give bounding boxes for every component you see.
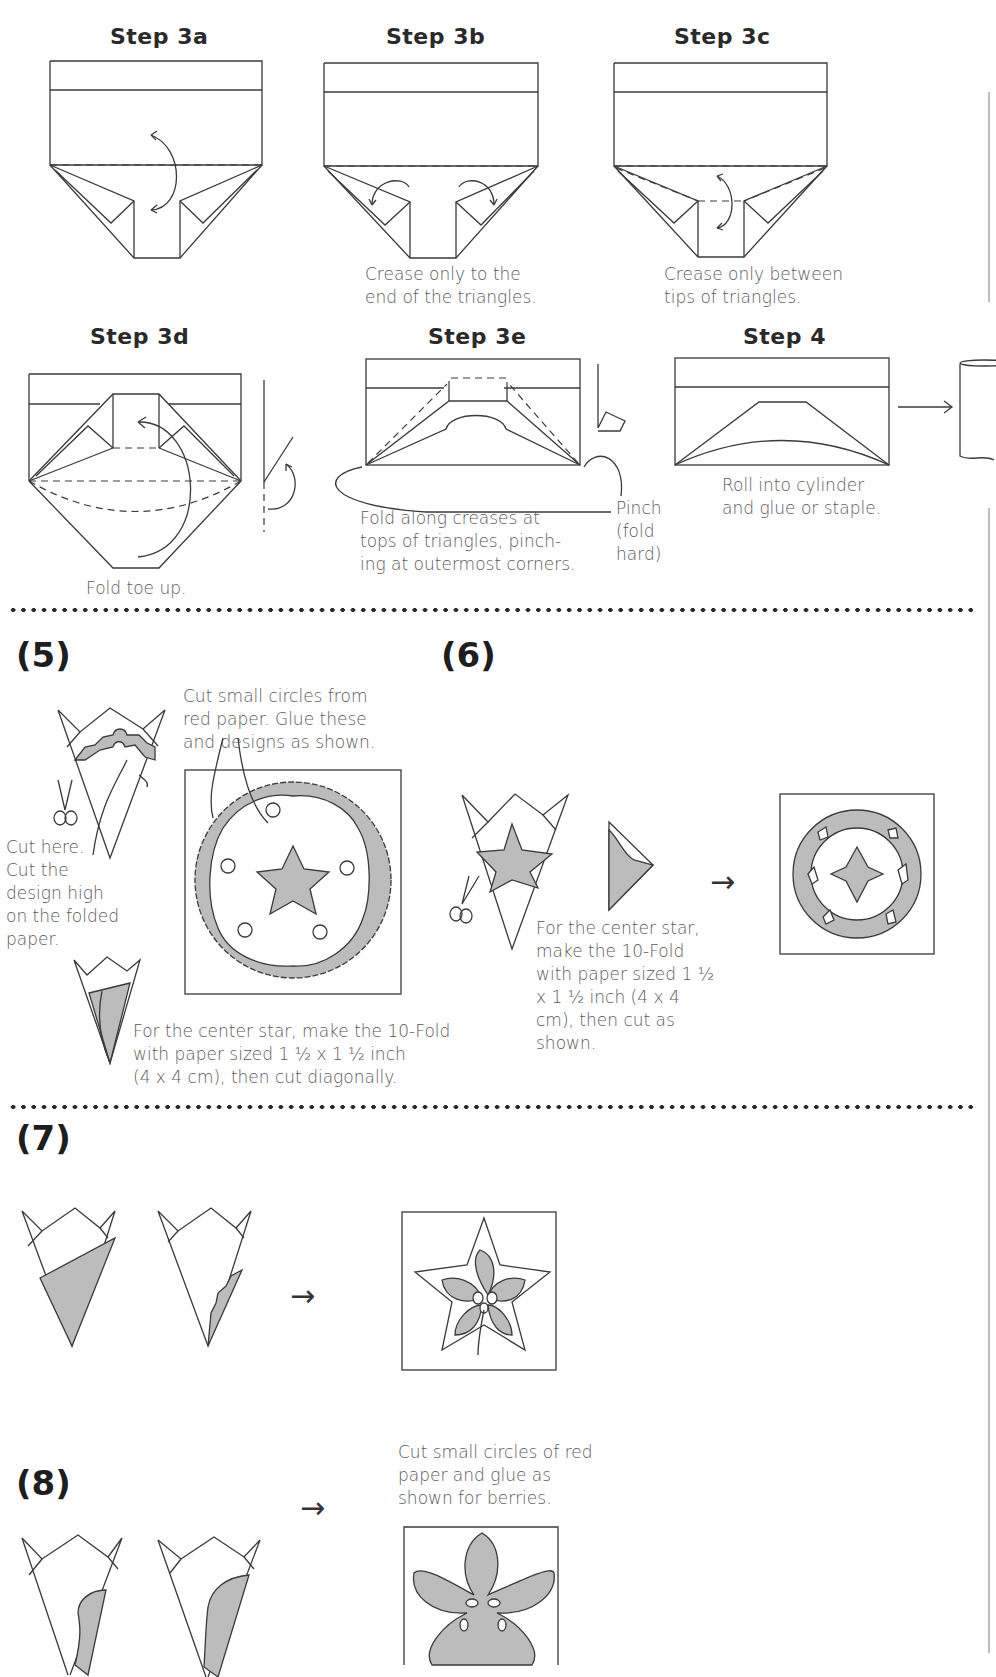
section-6-center-star-note: For the center star, make the 10-Fold wi… xyxy=(536,917,714,1055)
section-5-center-star-note: For the center star, make the 10-Fold wi… xyxy=(133,1020,450,1089)
scissors-icon-2 xyxy=(444,876,484,926)
section-8-fold-2 xyxy=(156,1537,286,1677)
section-8-number: (8) xyxy=(16,1463,71,1503)
step-3d-title: Step 3d xyxy=(90,324,189,349)
step-3e-title: Step 3e xyxy=(428,324,526,349)
section-divider-2 xyxy=(8,1104,978,1110)
scissors-icon xyxy=(50,780,80,830)
section-5-wreath-result xyxy=(183,768,403,998)
arrow-icon: → xyxy=(710,864,735,899)
section-5-cut-note: Cut here. Cut the design high on the fol… xyxy=(6,836,119,951)
arrow-icon-2: → xyxy=(290,1278,315,1313)
step-3a-diagram xyxy=(45,58,265,258)
right-margin-rule xyxy=(988,92,990,302)
section-7-fold-2 xyxy=(156,1208,276,1368)
step-4-caption: Roll into cylinder and glue or staple. xyxy=(722,474,881,520)
section-7-number: (7) xyxy=(16,1118,71,1158)
section-7-holly-result xyxy=(400,1210,560,1370)
arrow-icon-3: → xyxy=(300,1490,325,1525)
section-5-circles-note: Cut small circles from red paper. Glue t… xyxy=(183,685,375,754)
step-3b-caption: Crease only to the end of the triangles. xyxy=(365,263,537,309)
section-6-star-fold xyxy=(606,820,666,920)
step-4-title: Step 4 xyxy=(743,324,826,349)
section-7-fold-1 xyxy=(20,1208,140,1368)
section-5-number: (5) xyxy=(16,635,71,675)
section-divider xyxy=(8,607,978,613)
step-3c-caption: Crease only between tips of triangles. xyxy=(664,263,843,309)
step-3b-title: Step 3b xyxy=(386,24,485,49)
step-3c-title: Step 3c xyxy=(674,24,771,49)
section-8-fold-1 xyxy=(20,1535,150,1675)
section-6-number: (6) xyxy=(441,635,496,675)
step-4-diagram xyxy=(672,356,992,476)
step-3e-caption: Fold along creases at tops of triangles,… xyxy=(360,507,575,576)
section-8-berries-note: Cut small circles of red paper and glue … xyxy=(398,1441,593,1510)
section-8-flower-result xyxy=(402,1525,562,1665)
step-3e-pinch-label: Pinch (fold hard) xyxy=(616,497,662,566)
step-3a-title: Step 3a xyxy=(110,24,208,49)
step-3d-caption: Fold toe up. xyxy=(86,577,186,600)
step-3b-diagram xyxy=(322,60,542,260)
right-margin-rule-2 xyxy=(988,508,990,1653)
section-6-wreath-result xyxy=(778,792,938,957)
step-3c-diagram xyxy=(612,60,832,260)
step-3d-diagram xyxy=(28,372,328,582)
